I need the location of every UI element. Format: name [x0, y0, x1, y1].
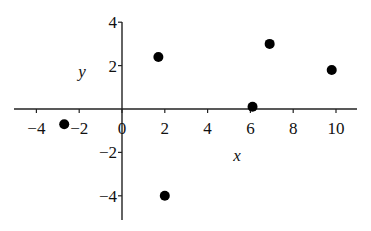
data-point — [248, 102, 258, 112]
y-tick-label: −4 — [99, 187, 118, 206]
data-point — [59, 119, 69, 129]
y-tick-label: 4 — [109, 13, 118, 32]
y-tick-label: −2 — [99, 143, 117, 162]
y-tick-label: 2 — [109, 57, 118, 76]
x-axis-label: x — [232, 146, 241, 165]
x-tick-label: 6 — [246, 119, 255, 138]
scatter-plot: −4−2024681042−2−4 x y — [0, 0, 371, 231]
data-point — [153, 52, 163, 62]
data-point — [160, 191, 170, 201]
x-tick-label: 2 — [161, 119, 170, 138]
x-tick-label: 0 — [118, 119, 127, 138]
y-axis-label: y — [76, 62, 86, 81]
x-tick-label: 10 — [328, 119, 345, 138]
x-tick-label: 8 — [289, 119, 298, 138]
data-point — [265, 39, 275, 49]
data-point — [327, 65, 337, 75]
x-tick-label: 4 — [203, 119, 212, 138]
x-tick-label: −4 — [27, 119, 46, 138]
x-tick-label: −2 — [70, 119, 88, 138]
